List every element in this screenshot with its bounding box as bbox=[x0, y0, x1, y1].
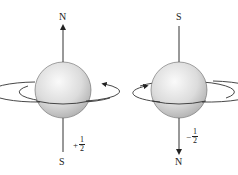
sphere bbox=[151, 62, 207, 118]
spin-sign: + bbox=[73, 140, 78, 150]
top-pole-label: S bbox=[176, 12, 182, 22]
sphere bbox=[35, 62, 91, 118]
bottom-pole-label: N bbox=[175, 157, 182, 167]
top-pole-label: N bbox=[59, 12, 66, 22]
spin-diagram bbox=[0, 0, 238, 175]
rotation-ring-left bbox=[0, 82, 40, 102]
spin-value: + 1 2 bbox=[73, 136, 85, 153]
bottom-pole-label: S bbox=[59, 157, 65, 167]
spin-sign: − bbox=[186, 132, 191, 142]
spin-up-figure bbox=[0, 27, 119, 152]
spin-value: − 1 2 bbox=[186, 128, 198, 145]
spin-denominator: 2 bbox=[193, 137, 197, 145]
spin-denominator: 2 bbox=[80, 145, 84, 153]
